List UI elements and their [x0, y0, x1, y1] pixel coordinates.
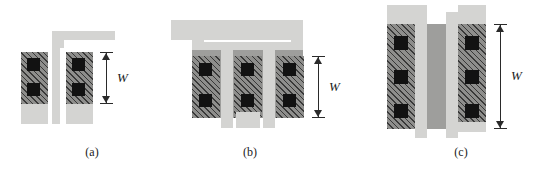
contact-foot-c: [458, 122, 486, 132]
panel-b-drawing: W: [150, 0, 350, 145]
width-label-b: W: [329, 79, 340, 95]
via-b-5: [283, 63, 296, 76]
gate-finger-c-1: [415, 5, 427, 138]
via-c-5: [465, 70, 479, 84]
via-c-3: [394, 104, 408, 118]
width-dimension-a: [98, 52, 114, 104]
panel-b-caption: (b): [150, 145, 350, 160]
via-c-4: [465, 36, 479, 50]
gate-top-bar-b: [171, 20, 303, 40]
via-c-2: [394, 70, 408, 84]
via-a-3: [72, 58, 85, 71]
width-label-c: W: [511, 68, 522, 84]
via-c-1: [394, 36, 408, 50]
via-a-1: [27, 58, 40, 71]
width-dimension-c: [492, 24, 508, 129]
via-b-2: [199, 94, 212, 107]
gate-finger-b-1: [221, 44, 233, 128]
figure-canvas: W (a): [0, 0, 552, 175]
panel-b: W (b): [150, 0, 350, 175]
gate-finger-b-2: [263, 44, 275, 128]
gate-bus-bottom-b: [192, 42, 303, 50]
width-dimension-b: [310, 56, 326, 118]
width-label-a: W: [117, 70, 128, 86]
panel-c: W (c): [370, 0, 552, 175]
panel-c-drawing: W: [370, 0, 552, 145]
gate-finger-a: [52, 31, 60, 124]
panel-c-caption: (c): [370, 145, 552, 160]
contact-extension-b-1: [236, 112, 260, 128]
via-b-1: [199, 63, 212, 76]
gate-finger-c-2: [446, 12, 458, 138]
via-a-2: [27, 83, 40, 96]
via-b-4: [241, 94, 254, 107]
gate-top-arm-a: [55, 31, 115, 40]
via-b-6: [283, 94, 296, 107]
via-c-6: [465, 104, 479, 118]
via-b-3: [241, 63, 254, 76]
via-a-4: [72, 83, 85, 96]
